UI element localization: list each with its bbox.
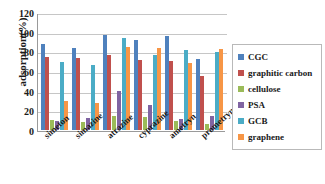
legend-label: CGC <box>248 52 268 62</box>
legend-swatch-icon <box>238 70 244 76</box>
chart-legend: CGCgraphitic carboncellulosePSAGCBgraphe… <box>232 44 322 150</box>
legend-label: graphene <box>248 132 284 142</box>
legend-item-graphitic-carbon[interactable]: graphitic carbon <box>238 65 318 81</box>
y-tick-label: 80 <box>8 49 34 57</box>
y-axis-tick-labels: 120100806040200 <box>8 10 34 132</box>
bar <box>200 76 204 130</box>
bars-layer <box>39 14 225 130</box>
legend-swatch-icon <box>238 54 244 60</box>
bar <box>107 55 111 130</box>
legend-label: graphitic carbon <box>248 68 312 78</box>
bar <box>76 58 80 130</box>
bar <box>45 57 49 130</box>
y-tick-label: 20 <box>8 108 34 116</box>
legend-item-cellulose[interactable]: cellulose <box>238 81 318 97</box>
bar-chart: adsorption(%) 120100806040200 simetonsim… <box>0 0 325 184</box>
bar <box>134 40 138 130</box>
bar <box>41 44 45 130</box>
y-tick-label: 120 <box>8 10 34 18</box>
legend-item-graphene[interactable]: graphene <box>238 129 318 145</box>
legend-label: PSA <box>248 100 265 110</box>
legend-item-cgc[interactable]: CGC <box>238 49 318 65</box>
legend-swatch-icon <box>238 134 244 140</box>
y-tick-label: 0 <box>8 128 34 136</box>
y-tick-label: 60 <box>8 69 34 77</box>
y-tick-label: 100 <box>8 30 34 38</box>
bar <box>72 48 76 130</box>
legend-item-gcb[interactable]: GCB <box>238 113 318 129</box>
x-axis-tick-labels: simetonsimazineatrazinecyprazineametrynp… <box>37 133 225 183</box>
bar-group <box>39 14 70 130</box>
bar <box>138 60 142 130</box>
legend-label: GCB <box>248 116 268 126</box>
y-tick-label: 40 <box>8 89 34 97</box>
bar <box>169 61 173 130</box>
legend-swatch-icon <box>238 86 244 92</box>
legend-swatch-icon <box>238 118 244 124</box>
legend-label: cellulose <box>248 84 281 94</box>
legend-swatch-icon <box>238 102 244 108</box>
legend-item-psa[interactable]: PSA <box>238 97 318 113</box>
